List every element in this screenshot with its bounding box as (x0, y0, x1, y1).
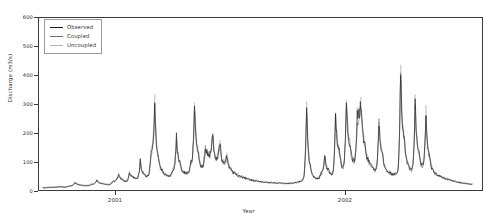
x-tick-mark-2002 (345, 191, 346, 195)
legend-item-uncoupled: Uncoupled (48, 41, 96, 50)
series-container (39, 18, 482, 190)
x-axis-label: Year (0, 208, 497, 214)
series-line-observed (43, 75, 473, 188)
y-axis-tick-labels: 600 500 400 300 200 100 0 (0, 0, 33, 221)
x-tick-label-2001: 2001 (95, 197, 135, 203)
y-tick-label-300: 300 (23, 102, 33, 107)
y-tick-label-200: 200 (23, 131, 33, 136)
y-tick-label-0: 0 (30, 189, 33, 194)
legend-swatch-coupled (50, 36, 63, 37)
plot-area (38, 17, 483, 191)
legend-label-coupled: Coupled (67, 34, 89, 39)
legend-swatch-uncoupled (50, 45, 63, 46)
y-tick-label-400: 400 (23, 73, 33, 78)
legend-item-observed: Observed (48, 23, 96, 32)
legend: Observed Coupled Uncoupled (44, 19, 102, 54)
x-tick-label-2002: 2002 (325, 197, 365, 203)
discharge-hydrograph-figure: 600 500 400 300 200 100 0 Discharge (m3/… (0, 0, 497, 221)
legend-swatch-observed (50, 27, 63, 28)
y-tick-label-600: 600 (23, 15, 33, 20)
y-axis-label: Discharge (m3/s) (7, 35, 13, 121)
x-tick-mark-2001 (115, 191, 116, 195)
series-line-coupled (43, 73, 473, 188)
legend-label-observed: Observed (67, 25, 93, 30)
y-tick-mark-0 (34, 191, 38, 192)
y-tick-label-100: 100 (23, 160, 33, 165)
series-line-uncoupled (43, 65, 473, 188)
y-tick-label-500: 500 (23, 44, 33, 49)
legend-item-coupled: Coupled (48, 32, 96, 41)
legend-label-uncoupled: Uncoupled (67, 43, 96, 48)
